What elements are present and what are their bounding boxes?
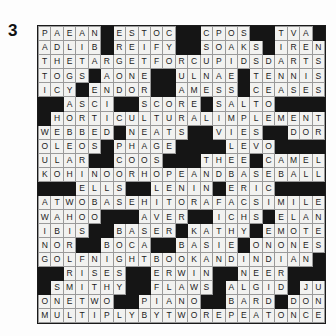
crossword-letter-cell[interactable]: A: [138, 210, 150, 224]
crossword-letter-cell[interactable]: E: [51, 125, 63, 139]
crossword-letter-cell[interactable]: S: [51, 280, 63, 294]
crossword-letter-cell[interactable]: S: [200, 238, 212, 252]
crossword-letter-cell[interactable]: P: [163, 167, 175, 181]
crossword-letter-cell[interactable]: O: [225, 27, 237, 41]
crossword-letter-cell[interactable]: S: [113, 266, 125, 280]
crossword-letter-cell[interactable]: N: [287, 308, 299, 322]
crossword-letter-cell[interactable]: T: [138, 252, 150, 266]
crossword-letter-cell[interactable]: W: [39, 125, 51, 139]
crossword-letter-cell[interactable]: C: [126, 238, 138, 252]
crossword-letter-cell[interactable]: P: [138, 294, 150, 308]
crossword-letter-cell[interactable]: U: [39, 153, 51, 167]
crossword-letter-cell[interactable]: U: [200, 55, 212, 69]
crossword-letter-cell[interactable]: P: [213, 55, 225, 69]
crossword-letter-cell[interactable]: Y: [113, 280, 125, 294]
crossword-letter-cell[interactable]: P: [113, 139, 125, 153]
crossword-letter-cell[interactable]: S: [200, 280, 212, 294]
crossword-letter-cell[interactable]: T: [262, 308, 274, 322]
crossword-letter-cell[interactable]: C: [200, 27, 212, 41]
crossword-letter-cell[interactable]: N: [200, 69, 212, 83]
crossword-letter-cell[interactable]: B: [101, 238, 113, 252]
crossword-letter-cell[interactable]: K: [188, 224, 200, 238]
crossword-letter-cell[interactable]: A: [63, 97, 75, 111]
crossword-letter-cell[interactable]: D: [287, 294, 299, 308]
crossword-letter-cell[interactable]: N: [300, 111, 312, 125]
crossword-letter-cell[interactable]: A: [163, 294, 175, 308]
crossword-letter-cell[interactable]: M: [225, 111, 237, 125]
crossword-letter-cell[interactable]: A: [39, 41, 51, 55]
crossword-letter-cell[interactable]: N: [126, 69, 138, 83]
crossword-letter-cell[interactable]: N: [175, 182, 187, 196]
crossword-letter-cell[interactable]: Y: [238, 224, 250, 238]
crossword-letter-cell[interactable]: W: [88, 294, 100, 308]
crossword-letter-cell[interactable]: O: [250, 238, 262, 252]
crossword-letter-cell[interactable]: E: [238, 125, 250, 139]
crossword-letter-cell[interactable]: T: [88, 280, 100, 294]
crossword-letter-cell[interactable]: L: [300, 167, 312, 181]
crossword-letter-cell[interactable]: I: [88, 308, 100, 322]
crossword-letter-cell[interactable]: E: [238, 139, 250, 153]
crossword-letter-cell[interactable]: U: [312, 280, 324, 294]
crossword-letter-cell[interactable]: H: [63, 210, 75, 224]
crossword-letter-cell[interactable]: O: [175, 196, 187, 210]
crossword-letter-cell[interactable]: P: [213, 27, 225, 41]
crossword-letter-cell[interactable]: T: [76, 294, 88, 308]
crossword-letter-cell[interactable]: I: [188, 182, 200, 196]
crossword-letter-cell[interactable]: F: [150, 280, 162, 294]
crossword-letter-cell[interactable]: W: [188, 280, 200, 294]
crossword-letter-cell[interactable]: F: [76, 252, 88, 266]
crossword-letter-cell[interactable]: K: [188, 252, 200, 266]
crossword-letter-cell[interactable]: R: [188, 196, 200, 210]
crossword-letter-cell[interactable]: B: [51, 224, 63, 238]
crossword-letter-cell[interactable]: D: [262, 252, 274, 266]
crossword-letter-cell[interactable]: I: [225, 125, 237, 139]
crossword-letter-cell[interactable]: E: [312, 308, 324, 322]
crossword-letter-cell[interactable]: D: [213, 167, 225, 181]
crossword-letter-cell[interactable]: B: [225, 167, 237, 181]
crossword-letter-cell[interactable]: C: [250, 83, 262, 97]
crossword-letter-cell[interactable]: A: [175, 83, 187, 97]
crossword-letter-cell[interactable]: A: [250, 308, 262, 322]
crossword-letter-cell[interactable]: L: [312, 153, 324, 167]
crossword-letter-cell[interactable]: H: [138, 196, 150, 210]
crossword-letter-cell[interactable]: T: [138, 55, 150, 69]
crossword-letter-cell[interactable]: O: [213, 41, 225, 55]
crossword-letter-cell[interactable]: E: [312, 224, 324, 238]
crossword-letter-cell[interactable]: C: [163, 27, 175, 41]
crossword-letter-cell[interactable]: I: [39, 83, 51, 97]
crossword-letter-cell[interactable]: R: [275, 266, 287, 280]
crossword-letter-cell[interactable]: E: [138, 125, 150, 139]
crossword-letter-cell[interactable]: A: [138, 238, 150, 252]
crossword-letter-cell[interactable]: B: [175, 238, 187, 252]
crossword-letter-cell[interactable]: A: [101, 196, 113, 210]
crossword-letter-cell[interactable]: G: [113, 55, 125, 69]
crossword-letter-cell[interactable]: L: [138, 111, 150, 125]
crossword-letter-cell[interactable]: A: [287, 167, 299, 181]
crossword-letter-cell[interactable]: I: [76, 167, 88, 181]
crossword-letter-cell[interactable]: I: [76, 266, 88, 280]
crossword-letter-cell[interactable]: N: [39, 238, 51, 252]
crossword-letter-cell[interactable]: O: [163, 55, 175, 69]
crossword-letter-cell[interactable]: C: [113, 111, 125, 125]
crossword-letter-cell[interactable]: I: [150, 196, 162, 210]
crossword-letter-cell[interactable]: N: [126, 125, 138, 139]
crossword-letter-cell[interactable]: R: [163, 266, 175, 280]
crossword-letter-cell[interactable]: A: [275, 55, 287, 69]
crossword-letter-cell[interactable]: H: [126, 139, 138, 153]
crossword-letter-cell[interactable]: E: [63, 27, 75, 41]
crossword-letter-cell[interactable]: R: [113, 41, 125, 55]
crossword-letter-cell[interactable]: O: [262, 139, 274, 153]
crossword-letter-cell[interactable]: O: [300, 294, 312, 308]
crossword-letter-cell[interactable]: E: [76, 182, 88, 196]
crossword-letter-cell[interactable]: E: [88, 125, 100, 139]
crossword-letter-cell[interactable]: A: [225, 196, 237, 210]
crossword-letter-cell[interactable]: N: [101, 83, 113, 97]
crossword-letter-cell[interactable]: E: [175, 167, 187, 181]
crossword-letter-cell[interactable]: N: [213, 252, 225, 266]
crossword-letter-cell[interactable]: E: [200, 83, 212, 97]
crossword-letter-cell[interactable]: T: [39, 55, 51, 69]
crossword-letter-cell[interactable]: S: [250, 210, 262, 224]
crossword-letter-cell[interactable]: R: [175, 210, 187, 224]
crossword-letter-cell[interactable]: S: [312, 55, 324, 69]
crossword-letter-cell[interactable]: E: [262, 83, 274, 97]
